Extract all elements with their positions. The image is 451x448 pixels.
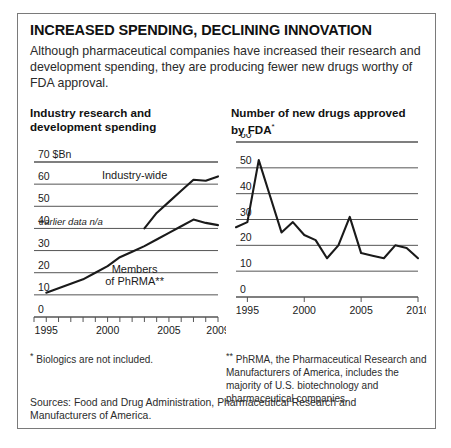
x-tick-labels: 1995200020052009 <box>35 324 226 336</box>
x-tick-label-2000: 2000 <box>96 324 120 336</box>
x-tick-label-2009: 2009 <box>206 324 226 336</box>
annotation-label: Members <box>112 263 158 275</box>
y-tick-60: 60 <box>38 170 50 182</box>
y-tick-50: 50 <box>38 192 50 204</box>
right-chart-title: Number of new drugs approved by FDA* <box>231 106 421 136</box>
chart-svg-rd-spending: 010203040506070 $Bn1995200020052009Indus… <box>26 134 226 349</box>
y-tick-0: 0 <box>38 303 44 315</box>
y-tick-40: 40 <box>240 180 252 192</box>
gridlines <box>236 142 418 297</box>
chart-rd-spending: 010203040506070 $Bn1995200020052009Indus… <box>26 134 226 349</box>
y-tick-30: 30 <box>38 237 50 249</box>
x-tick-label-1995: 1995 <box>236 304 260 316</box>
gridlines <box>34 162 218 317</box>
y-tick-20: 20 <box>38 259 50 271</box>
x-tick-label-2010: 2010 <box>406 304 426 316</box>
infographic-panel: INCREASED SPENDING, DECLINING INNOVATION… <box>17 13 436 429</box>
y-tick-70: 70 $Bn <box>38 148 71 160</box>
sources-line: Sources: Food and Drug Administration, P… <box>30 396 420 423</box>
right-chart-title-footnote-mark: * <box>272 122 275 131</box>
series-group <box>236 160 418 258</box>
footnote-biologics-mark: * <box>30 351 34 361</box>
y-tick-60: 60 <box>240 134 252 140</box>
y-tick-0: 0 <box>240 283 246 295</box>
series-line <box>236 160 418 258</box>
left-chart-title: Industry research and development spendi… <box>30 106 210 133</box>
x-tick-label-2005: 2005 <box>349 304 373 316</box>
annotation-label: Industry-wide <box>102 169 167 181</box>
footnote-phrma-mark: ** <box>226 351 233 361</box>
page-title: INCREASED SPENDING, DECLINING INNOVATION <box>30 22 426 38</box>
annotation-label: earlier data n/a <box>39 216 103 227</box>
footnote-biologics: * Biologics are not included. <box>30 350 220 366</box>
x-tick-labels: 1995200020052010 <box>236 304 426 316</box>
x-tick-label-1995: 1995 <box>35 324 59 336</box>
y-tick-20: 20 <box>240 231 252 243</box>
x-ticks <box>34 317 218 322</box>
x-tick-label-2005: 2005 <box>157 324 181 336</box>
footnote-biologics-text: Biologics are not included. <box>36 354 153 365</box>
x-ticks <box>247 297 418 302</box>
annotation-label: of PhRMA** <box>105 275 164 287</box>
y-tick-50: 50 <box>240 154 252 166</box>
chart-svg-fda-approvals: 01020304050601995200020052010 <box>228 134 426 349</box>
footnotes: * Biologics are not included. ** PhRMA, … <box>30 350 430 392</box>
right-chart-title-text: Number of new drugs approved by FDA <box>231 106 406 135</box>
chart-fda-approvals: 01020304050601995200020052010 <box>228 134 426 349</box>
infographic-root: INCREASED SPENDING, DECLINING INNOVATION… <box>0 0 451 448</box>
y-tick-10: 10 <box>240 257 252 269</box>
x-tick-label-2000: 2000 <box>293 304 317 316</box>
page-deck: Although pharmaceutical companies have i… <box>30 43 422 92</box>
